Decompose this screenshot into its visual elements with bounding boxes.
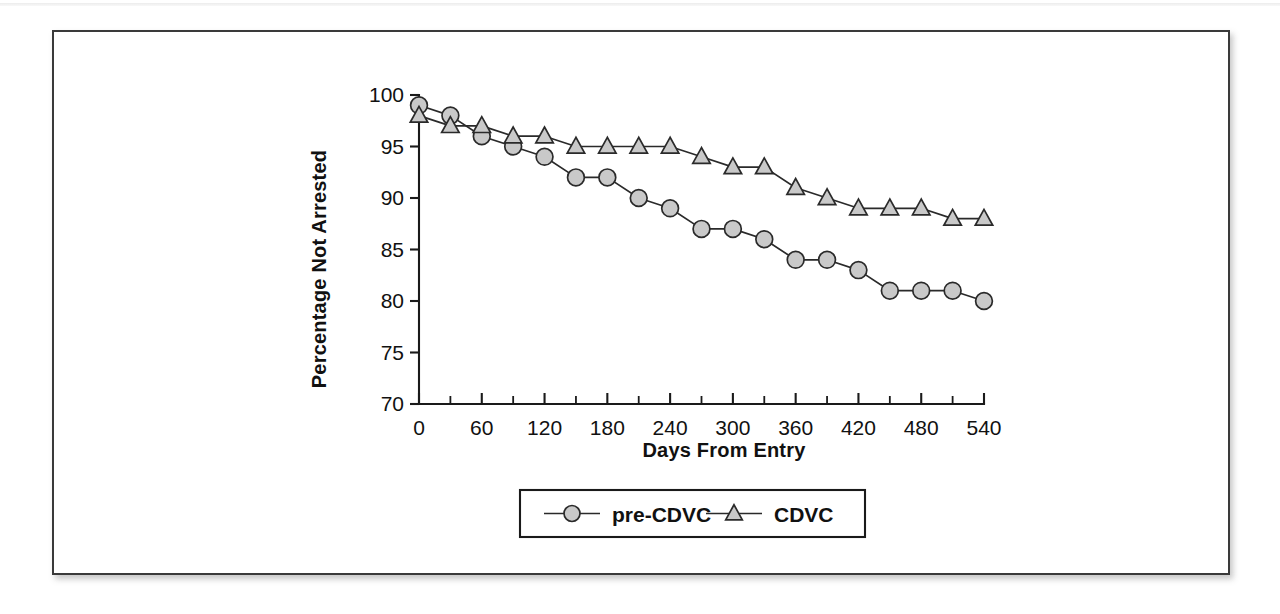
x-axis-tick-label: 120 (527, 416, 562, 439)
data-point-circle (630, 190, 647, 207)
data-point-circle (693, 221, 710, 238)
data-point-circle (819, 251, 836, 268)
data-point-circle (881, 282, 898, 299)
data-point-triangle (473, 117, 490, 133)
data-point-triangle (630, 137, 647, 153)
data-point-circle (536, 148, 553, 165)
x-axis-tick-label: 360 (778, 416, 813, 439)
data-point-circle (787, 251, 804, 268)
legend-label: pre-CDVC (612, 503, 711, 526)
x-axis-tick-label: 180 (590, 416, 625, 439)
x-axis-tick-label: 420 (841, 416, 876, 439)
scanned-page: Percentage Not Arrested Days From Entry … (0, 0, 1280, 614)
x-axis-tick-label: 60 (470, 416, 493, 439)
data-point-triangle (756, 158, 773, 174)
series-line (419, 105, 984, 301)
data-point-circle (564, 506, 580, 522)
series-line (419, 116, 984, 219)
data-point-circle (976, 293, 993, 310)
data-point-circle (599, 169, 616, 186)
y-axis: 707580859095100 (369, 83, 419, 415)
x-axis-tick-label: 540 (966, 416, 1001, 439)
data-point-circle (944, 282, 961, 299)
y-axis-tick-label: 75 (381, 341, 404, 364)
line-chart: Percentage Not Arrested Days From Entry … (54, 32, 1232, 577)
data-point-triangle (787, 179, 804, 195)
data-point-triangle (599, 137, 616, 153)
series-pre-cdvc (411, 97, 993, 310)
y-axis-tick-label: 95 (381, 135, 404, 158)
data-point-circle (724, 221, 741, 238)
x-axis-tick-label: 240 (653, 416, 688, 439)
y-axis-tick-label: 70 (381, 392, 404, 415)
x-axis-title: Days From Entry (642, 439, 806, 461)
data-series-group (410, 97, 992, 310)
y-axis-tick-label: 80 (381, 289, 404, 312)
y-axis-tick-label: 100 (369, 83, 404, 106)
x-axis: 060120180240300360420480540 (413, 393, 1001, 439)
y-axis-tick-label: 90 (381, 186, 404, 209)
data-point-circle (850, 262, 867, 279)
data-point-circle (662, 200, 679, 217)
data-point-triangle (912, 199, 929, 215)
data-point-circle (913, 282, 930, 299)
y-axis-tick-label: 85 (381, 238, 404, 261)
x-axis-tick-label: 0 (413, 416, 425, 439)
data-point-triangle (881, 199, 898, 215)
y-axis-title: Percentage Not Arrested (308, 150, 330, 388)
x-axis-tick-label: 480 (904, 416, 939, 439)
data-point-triangle (975, 209, 992, 225)
series-cdvc (410, 106, 992, 225)
chart-legend: pre-CDVCCDVC (520, 490, 865, 537)
scan-artifact-line (0, 3, 1280, 6)
figure-frame: Percentage Not Arrested Days From Entry … (52, 30, 1230, 575)
data-point-triangle (661, 137, 678, 153)
data-point-triangle (536, 127, 553, 143)
chart-area: Percentage Not Arrested Days From Entry … (54, 32, 1232, 577)
legend-label: CDVC (774, 503, 834, 526)
data-point-circle (756, 231, 773, 248)
data-point-circle (568, 169, 585, 186)
x-axis-tick-label: 300 (715, 416, 750, 439)
